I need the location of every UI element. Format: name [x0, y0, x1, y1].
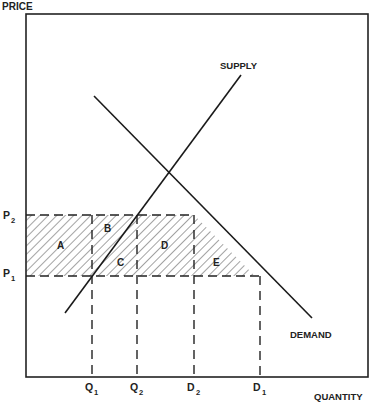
plot-frame [26, 14, 368, 377]
demand-curve [94, 96, 312, 318]
svg-text:D: D [253, 381, 261, 393]
q1-label: Q 1 [85, 381, 98, 397]
y-axis-label: PRICE [2, 1, 33, 12]
svg-text:2: 2 [139, 388, 143, 397]
demand-label: DEMAND [290, 329, 332, 340]
svg-text:P: P [3, 267, 10, 279]
svg-text:Q: Q [130, 381, 138, 393]
supply-label: SUPPLY [220, 60, 258, 71]
d1-label: D 1 [253, 381, 266, 397]
d2-label: D 2 [187, 381, 200, 397]
svg-text:1: 1 [11, 274, 15, 283]
svg-text:1: 1 [94, 388, 98, 397]
region-a-label: A [57, 240, 64, 251]
x-axis-label: QUANTITY [314, 391, 363, 402]
svg-text:2: 2 [196, 388, 200, 397]
p2-label: P 2 [3, 209, 15, 225]
supply-demand-diagram: PRICE SUPPLY DEMAND A B C D E P 2 P 1 Q … [0, 0, 377, 405]
region-d-label: D [161, 240, 168, 251]
svg-text:D: D [187, 381, 195, 393]
supply-curve [65, 75, 241, 313]
svg-text:P: P [3, 209, 10, 221]
region-c-label: C [117, 257, 124, 268]
region-b-label: B [104, 223, 111, 234]
region-e-label: E [213, 257, 220, 268]
svg-text:2: 2 [11, 216, 15, 225]
p1-label: P 1 [3, 267, 15, 283]
svg-text:Q: Q [85, 381, 93, 393]
svg-text:1: 1 [262, 388, 266, 397]
q2-label: Q 2 [130, 381, 143, 397]
